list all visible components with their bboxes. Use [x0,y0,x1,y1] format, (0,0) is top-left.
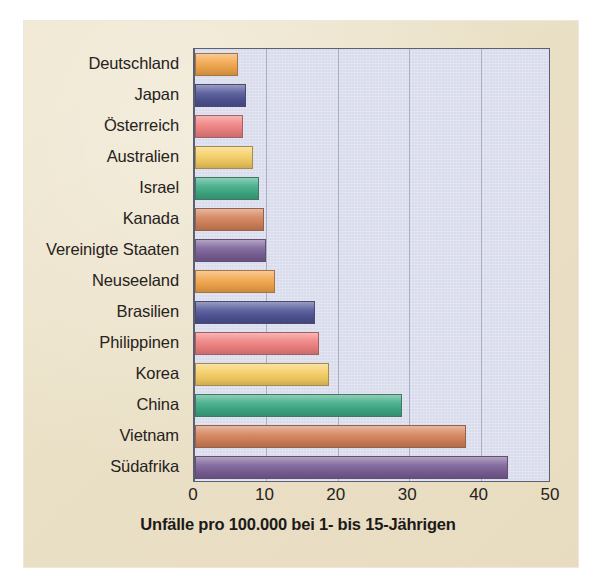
category-label-israel: Israel [139,172,179,203]
bar-gloss [196,147,252,168]
bars-layer [195,49,549,481]
bar-gloss [196,54,237,75]
bar-china [195,394,402,417]
bar-gloss [196,395,401,416]
figure-panel: DeutschlandJapanÖsterreichAustralienIsra… [24,21,578,567]
bar-gloss [196,457,507,478]
bar-brasilien [195,301,315,324]
xtick-label-50: 50 [541,485,560,505]
plot-area [193,48,550,482]
xtick-label-30: 30 [398,485,417,505]
bar-israel [195,177,259,200]
category-axis-labels: DeutschlandJapanÖsterreichAustralienIsra… [24,48,187,482]
bar-kanada [195,208,264,231]
bar-gloss [196,271,274,292]
bar-österreich [195,115,243,138]
bar-gloss [196,302,314,323]
bar-südafrika [195,456,508,479]
category-label-südafrika: Südafrika [110,451,179,482]
category-label-china: China [136,389,179,420]
bar-gloss [196,426,465,447]
bar-vereinigte-staaten [195,239,266,262]
category-label-kanada: Kanada [123,203,179,234]
axis-title: Unfälle pro 100.000 bei 1- bis 15-Jährig… [24,515,572,534]
xtick-label-10: 10 [255,485,274,505]
category-label-brasilien: Brasilien [117,296,179,327]
bar-neuseeland [195,270,275,293]
bar-korea [195,363,329,386]
bar-deutschland [195,53,238,76]
bar-philippinen [195,332,319,355]
category-label-deutschland: Deutschland [88,48,179,79]
bar-gloss [196,364,328,385]
category-label-vereinigte-staaten: Vereinigte Staaten [46,234,179,265]
xtick-label-40: 40 [469,485,488,505]
category-label-österreich: Österreich [104,110,179,141]
category-label-philippinen: Philippinen [99,327,179,358]
bar-gloss [196,240,265,261]
bar-gloss [196,116,242,137]
bar-vietnam [195,425,466,448]
bar-gloss [196,209,263,230]
bar-gloss [196,178,258,199]
category-label-korea: Korea [135,358,179,389]
bar-japan [195,84,246,107]
category-label-vietnam: Vietnam [119,420,179,451]
bar-gloss [196,85,245,106]
xtick-label-0: 0 [188,485,197,505]
category-label-australien: Australien [107,141,179,172]
bar-australien [195,146,253,169]
xtick-label-20: 20 [326,485,345,505]
category-label-japan: Japan [135,79,179,110]
bar-gloss [196,333,318,354]
category-label-neuseeland: Neuseeland [92,265,179,296]
value-axis-tick-labels: 01020304050 [193,485,550,511]
